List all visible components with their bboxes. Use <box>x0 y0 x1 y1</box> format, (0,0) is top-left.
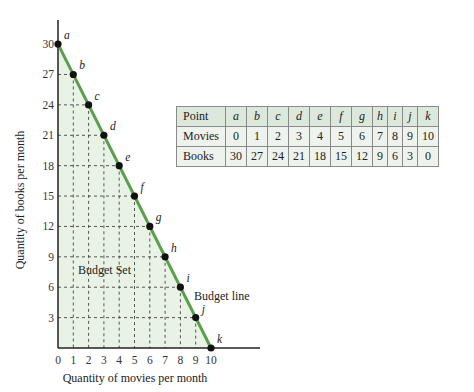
x-tick-label: 8 <box>178 354 184 366</box>
table-cell: h <box>373 107 388 127</box>
point-label-b: b <box>79 59 85 71</box>
y-axis-label: Quantity of books per month <box>13 131 27 270</box>
table-cell: k <box>418 107 439 127</box>
table-row: Movies012345678910 <box>177 127 439 147</box>
table-cell: 2 <box>268 127 289 147</box>
table-cell: 21 <box>289 147 310 167</box>
y-tick-label: 12 <box>43 220 55 232</box>
budget-chart: abcdefghijk01234567891036912151821242730… <box>0 0 474 392</box>
table-row: Books302724211815129630 <box>177 147 439 167</box>
y-tick-label: 24 <box>43 99 55 111</box>
x-tick-label: 0 <box>55 354 61 366</box>
table-cell: 6 <box>388 147 403 167</box>
y-tick-label: 3 <box>48 312 54 324</box>
table-cell: Books <box>177 147 226 167</box>
x-tick-label: 5 <box>132 354 138 366</box>
data-point <box>100 132 107 139</box>
data-point <box>70 71 77 78</box>
budget-line-label: Budget line <box>194 289 250 303</box>
x-tick-label: 9 <box>193 354 199 366</box>
point-label-h: h <box>171 242 177 254</box>
point-label-d: d <box>110 120 116 132</box>
data-point <box>146 223 153 230</box>
table-cell: 3 <box>289 127 310 147</box>
table-cell: c <box>268 107 289 127</box>
table-cell: 6 <box>352 127 373 147</box>
y-tick-label: 21 <box>43 129 55 141</box>
x-tick-label: 6 <box>147 354 153 366</box>
point-label-k: k <box>217 333 223 345</box>
table-cell: 24 <box>268 147 289 167</box>
data-point <box>85 101 92 108</box>
x-axis-label: Quantity of movies per month <box>63 371 208 385</box>
table-cell: j <box>403 107 418 127</box>
table-cell: e <box>310 107 331 127</box>
point-label-e: e <box>125 151 130 163</box>
table-cell: b <box>247 107 268 127</box>
table-cell: 4 <box>310 127 331 147</box>
table-cell: Movies <box>177 127 226 147</box>
point-label-j: j <box>200 303 205 316</box>
table-cell: d <box>289 107 310 127</box>
point-label-a: a <box>64 29 70 41</box>
y-tick-label: 27 <box>43 68 55 80</box>
table-cell: i <box>388 107 403 127</box>
data-point <box>162 253 169 260</box>
table-cell: 18 <box>310 147 331 167</box>
point-table: PointabcdefghijkMovies012345678910Books3… <box>176 106 439 167</box>
point-label-f: f <box>141 181 146 194</box>
table-cell: 27 <box>247 147 268 167</box>
point-label-i: i <box>186 272 189 284</box>
table-header-row: Pointabcdefghijk <box>177 107 439 127</box>
table-cell: 30 <box>226 147 247 167</box>
table-cell: 9 <box>373 147 388 167</box>
table-cell: 8 <box>388 127 403 147</box>
x-tick-label: 1 <box>70 354 76 366</box>
budget-set-label: Budget Set <box>78 263 132 277</box>
table-cell: 15 <box>331 147 352 167</box>
y-tick-label: 6 <box>48 281 54 293</box>
data-point <box>131 192 138 199</box>
data-point <box>207 344 214 351</box>
x-tick-label: 7 <box>162 354 168 366</box>
data-point <box>54 41 61 48</box>
table-cell: 7 <box>373 127 388 147</box>
x-tick-label: 10 <box>205 354 217 366</box>
table-cell: g <box>352 107 373 127</box>
y-tick-label: 9 <box>48 251 54 263</box>
table-cell: 9 <box>403 127 418 147</box>
data-point <box>116 162 123 169</box>
y-tick-label: 15 <box>43 190 55 202</box>
table-cell: 12 <box>352 147 373 167</box>
point-label-g: g <box>156 211 162 224</box>
table-cell: 0 <box>418 147 439 167</box>
x-tick-label: 3 <box>101 354 107 366</box>
table-cell: a <box>226 107 247 127</box>
table-cell: 3 <box>403 147 418 167</box>
table-cell: 0 <box>226 127 247 147</box>
table-cell: 10 <box>418 127 439 147</box>
data-point <box>192 314 199 321</box>
x-tick-label: 2 <box>86 354 92 366</box>
table-cell: f <box>331 107 352 127</box>
table-cell: 1 <box>247 127 268 147</box>
x-tick-label: 4 <box>116 354 122 366</box>
y-tick-label: 30 <box>43 38 55 50</box>
data-point <box>177 284 184 291</box>
table-cell: Point <box>177 107 226 127</box>
y-tick-label: 18 <box>43 160 55 172</box>
point-label-c: c <box>95 90 100 102</box>
table-cell: 5 <box>331 127 352 147</box>
